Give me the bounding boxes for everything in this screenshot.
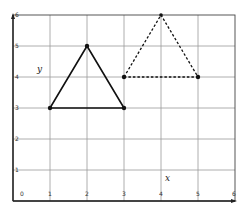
vertex-point (48, 106, 52, 110)
svg-text:5: 5 (196, 190, 200, 197)
vertex-point (159, 13, 163, 17)
svg-text:3: 3 (122, 190, 126, 197)
x-axis-label: x (165, 173, 170, 183)
svg-text:1: 1 (48, 190, 52, 197)
svg-text:6: 6 (232, 190, 236, 197)
svg-text:3: 3 (15, 104, 19, 111)
x-axis-arrow-icon (231, 199, 237, 203)
svg-text:5: 5 (15, 42, 19, 49)
vertex-point (122, 106, 126, 110)
svg-text:4: 4 (15, 73, 19, 80)
svg-text:2: 2 (15, 135, 19, 142)
svg-text:6: 6 (15, 11, 19, 18)
svg-text:2: 2 (85, 190, 89, 197)
y-axis-label: y (36, 64, 43, 74)
svg-text:0: 0 (20, 190, 24, 197)
svg-text:1: 1 (15, 166, 19, 173)
y-tick-labels: 1 2 3 4 5 6 (15, 11, 19, 173)
vertex-point (122, 75, 126, 79)
coordinate-plane: 1 2 3 4 5 6 0 1 2 3 4 5 6 y x (0, 0, 249, 211)
x-tick-labels: 0 1 2 3 4 5 6 (20, 190, 236, 197)
vertex-point (196, 75, 200, 79)
vertex-point (85, 44, 89, 48)
svg-text:4: 4 (159, 190, 163, 197)
